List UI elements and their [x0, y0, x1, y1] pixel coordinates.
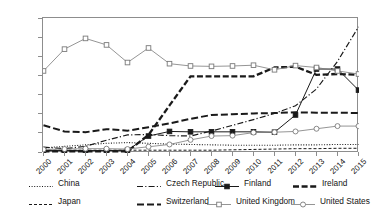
- x-tick-mark: [190, 152, 191, 156]
- series-united-states: [43, 124, 359, 152]
- data-point-marker: [167, 61, 172, 66]
- data-point-marker: [188, 137, 193, 142]
- x-tick-mark: [295, 152, 296, 156]
- series-finland: [43, 67, 359, 153]
- x-tick-mark: [253, 152, 254, 156]
- legend-swatch-icon: [214, 178, 240, 189]
- series-line: [44, 126, 359, 149]
- x-tick-mark: [274, 152, 275, 156]
- data-point-marker: [293, 129, 298, 134]
- data-point-marker: [125, 147, 130, 152]
- x-tick-mark: [106, 152, 107, 156]
- legend-swatch-icon: [136, 178, 162, 189]
- data-point-marker: [272, 130, 277, 135]
- data-point-marker: [272, 68, 277, 73]
- legend-item-czech-republic[interactable]: Czech Republic: [136, 176, 224, 191]
- x-tick-mark: [358, 152, 359, 156]
- x-tick-mark: [85, 152, 86, 156]
- data-point-marker: [230, 133, 235, 138]
- legend-label: China: [58, 179, 80, 187]
- data-point-marker: [125, 60, 130, 65]
- legend-label: United Kingdom: [236, 197, 295, 205]
- legend-swatch-icon: [292, 178, 318, 189]
- x-tick-mark: [43, 152, 44, 156]
- legend-swatch-icon: [28, 178, 54, 189]
- data-point-marker: [314, 126, 319, 131]
- data-point-marker: [356, 124, 359, 129]
- data-point-marker: [188, 130, 193, 135]
- data-point-marker: [209, 134, 214, 139]
- legend-label: Finland: [244, 179, 271, 187]
- data-point-marker: [293, 113, 298, 118]
- data-point-marker: [314, 65, 319, 70]
- data-point-marker: [356, 88, 359, 93]
- legend-item-switzerland[interactable]: Switzerland: [136, 194, 209, 209]
- data-point-marker: [104, 146, 109, 151]
- x-tick-mark: [211, 152, 212, 156]
- data-point-marker: [293, 63, 298, 68]
- data-point-marker: [104, 43, 109, 48]
- x-tick-mark: [148, 152, 149, 156]
- data-point-marker: [62, 47, 67, 52]
- data-point-marker: [251, 130, 256, 135]
- legend-swatch-icon: [206, 196, 232, 207]
- data-point-marker: [83, 36, 88, 41]
- chart-legend: ChinaCzech RepublicFinlandIrelandJapanSw…: [18, 176, 366, 214]
- legend-item-ireland[interactable]: Ireland: [292, 176, 347, 191]
- data-point-marker: [43, 69, 46, 74]
- data-point-marker: [146, 46, 151, 51]
- data-point-marker: [62, 147, 67, 152]
- plot-area: [42, 17, 358, 152]
- legend-item-japan[interactable]: Japan: [28, 194, 81, 209]
- x-tick-mark: [64, 152, 65, 156]
- data-point-marker: [230, 64, 235, 69]
- legend-label: Japan: [58, 197, 81, 205]
- data-point-marker: [83, 146, 88, 151]
- series-line: [44, 38, 359, 74]
- line-chart: Percentage 05101520253035 20002001200220…: [0, 0, 372, 218]
- legend-label: United States: [320, 197, 370, 205]
- data-point-marker: [335, 124, 340, 129]
- data-point-marker: [209, 64, 214, 69]
- legend-swatch-icon: [136, 196, 162, 207]
- series-czech-republic: [44, 27, 359, 149]
- x-tick-mark: [169, 152, 170, 156]
- legend-label: Ireland: [322, 179, 347, 187]
- data-point-marker: [167, 142, 172, 147]
- data-point-marker: [251, 63, 256, 68]
- x-tick-mark: [232, 152, 233, 156]
- data-point-marker: [335, 69, 340, 74]
- legend-label: Switzerland: [166, 197, 209, 205]
- series-canvas: [43, 18, 359, 153]
- legend-item-finland[interactable]: Finland: [214, 176, 271, 191]
- legend-item-united-kingdom[interactable]: United Kingdom: [206, 194, 295, 209]
- data-point-marker: [356, 72, 359, 77]
- x-tick-mark: [337, 152, 338, 156]
- legend-swatch-icon: [28, 196, 54, 207]
- x-tick-mark: [316, 152, 317, 156]
- data-point-marker: [146, 144, 151, 149]
- legend-item-china[interactable]: China: [28, 176, 80, 191]
- legend-item-united-states[interactable]: United States: [290, 194, 370, 209]
- legend-swatch-icon: [290, 196, 316, 207]
- x-tick-mark: [127, 152, 128, 156]
- series-united-kingdom: [43, 36, 359, 76]
- data-point-marker: [188, 64, 193, 69]
- series-line: [44, 27, 359, 149]
- data-point-marker: [167, 129, 172, 134]
